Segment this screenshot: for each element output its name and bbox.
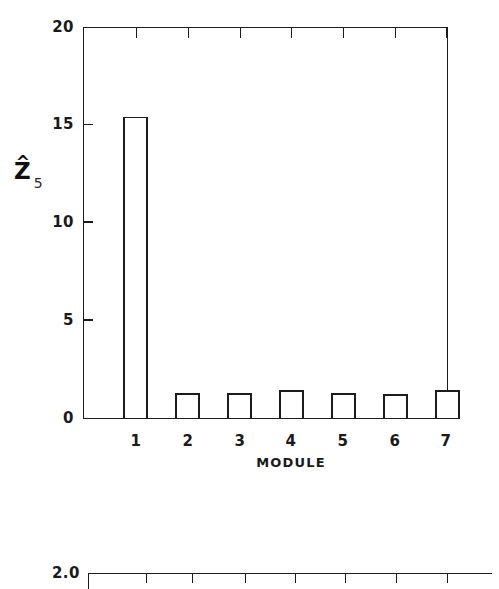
lower-top-tick-marks: [147, 574, 448, 584]
lower-chart-svg: [0, 0, 499, 589]
lower-plot-frame: [89, 574, 493, 589]
lower-y-axis-label-2: 2.0: [20, 564, 80, 582]
lower-axis-lines: [89, 574, 493, 589]
figure-canvas: 20 15 10 5 0 ^Z 5 1 2 3 4 5 6 7 MODULE: [0, 0, 499, 589]
